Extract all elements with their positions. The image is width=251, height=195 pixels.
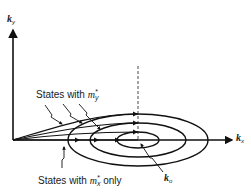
k0-label: ko: [164, 172, 172, 183]
states-mx-text: States with: [38, 175, 90, 186]
states-my-label: States with m*y: [36, 89, 98, 101]
states-my-text: States with: [36, 89, 88, 100]
kx-subscript: x: [241, 138, 244, 144]
my-sub: y: [95, 94, 99, 101]
mx-suffix: only: [100, 175, 121, 186]
my-supsub: *y: [95, 89, 99, 101]
my-pointer-arrows: [45, 104, 100, 129]
kx-axis-label: kx: [236, 132, 244, 143]
k0-subscript: o: [169, 178, 172, 184]
ky-subscript: y: [12, 19, 15, 25]
states-mx-label: States with m*x only: [38, 175, 122, 187]
ky-axis-label: ky: [7, 13, 15, 24]
mx-pointer-arrow: [62, 147, 64, 168]
mx-symbol: m: [90, 175, 97, 186]
my-symbol: m: [88, 89, 95, 100]
